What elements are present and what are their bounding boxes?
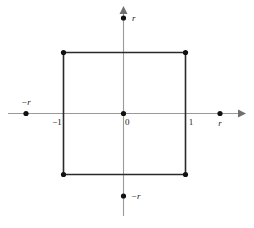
label-x-neg-r: −r xyxy=(21,97,31,107)
point-corner-bottom-left xyxy=(61,172,66,177)
x-axis-arrowhead-icon xyxy=(238,110,246,118)
label-x-neg-unit: −1 xyxy=(52,117,62,127)
point-corner-top-left xyxy=(61,50,66,55)
label-x-pos-r: r xyxy=(218,118,222,128)
point-x-neg-r xyxy=(23,111,28,116)
label-origin: 0 xyxy=(125,117,130,127)
point-corner-bottom-right xyxy=(183,172,188,177)
label-x-pos-unit: 1 xyxy=(189,117,194,127)
coordinate-plane-figure: 0 −1 1 −r r r −r xyxy=(0,0,254,228)
point-corner-top-right xyxy=(183,50,188,55)
label-y-neg-r: −r xyxy=(131,191,141,201)
point-y-neg-r xyxy=(121,193,126,198)
point-y-pos-r xyxy=(121,15,126,20)
labels-group: 0 −1 1 −r r r −r xyxy=(21,13,222,201)
point-origin xyxy=(121,111,126,116)
label-y-pos-r: r xyxy=(132,13,136,23)
axes-group xyxy=(8,6,246,216)
figure-container: 0 −1 1 −r r r −r xyxy=(0,0,254,228)
y-axis-arrowhead-icon xyxy=(120,6,128,14)
point-x-pos-r xyxy=(217,111,222,116)
